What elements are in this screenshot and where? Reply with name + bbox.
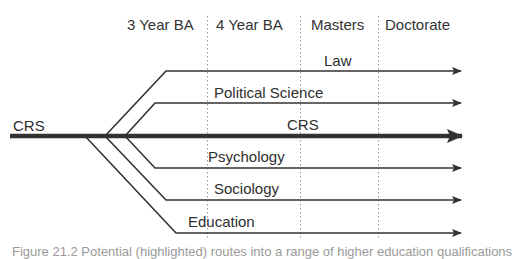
route-label-sociology: Sociology: [214, 180, 279, 197]
route-psychology: [125, 136, 461, 168]
main-route-label: CRS: [287, 116, 319, 133]
route-label-psychology: Psychology: [208, 148, 285, 165]
route-label-education: Education: [188, 213, 255, 230]
column-header-doctorate: Doctorate: [385, 16, 450, 33]
column-header-masters: Masters: [311, 16, 364, 33]
figure-caption: Figure 21.2 Potential (highlighted) rout…: [12, 244, 512, 259]
column-header-3yr-ba: 3 Year BA: [127, 16, 194, 33]
column-header-4yr-ba: 4 Year BA: [216, 16, 283, 33]
route-label-law: Law: [324, 52, 352, 69]
start-label-crs: CRS: [13, 117, 45, 134]
route-label-political-science: Political Science: [214, 84, 323, 101]
